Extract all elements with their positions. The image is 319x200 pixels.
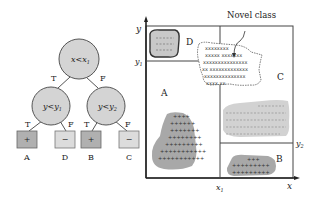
decision-tree-diagram: T F T F T F x<x1 y<y1 y<y2 + A − D + B −…	[0, 0, 319, 200]
y2-tick-label: y2	[295, 139, 304, 149]
svg-text:+++++++++: +++++++++	[232, 169, 270, 175]
svg-text:xxxxxxxxxxxxxxx: xxxxxxxxxxxxxxx	[203, 59, 247, 65]
leaf-B: + B	[81, 131, 101, 162]
left-node: y<y1	[32, 87, 70, 125]
region-label-C: C	[277, 72, 284, 82]
svg-text:A: A	[23, 153, 30, 162]
root-node: x<x1	[59, 39, 99, 79]
svg-text:+++++++++: +++++++++	[232, 162, 270, 168]
svg-text:++++++: ++++++	[170, 120, 195, 126]
right-node: y<y2	[87, 87, 125, 125]
edge-label-left-false: F	[68, 120, 74, 129]
y-axis-label: y	[135, 24, 142, 34]
x-axis-label: x	[287, 181, 292, 191]
leaf-A: + A	[17, 131, 37, 162]
svg-text:−: −	[126, 135, 133, 144]
edge-label-root-false: F	[100, 74, 106, 83]
y1-tick-label: y1	[134, 57, 143, 67]
svg-text:+++++++++++: +++++++++++	[160, 148, 206, 154]
edge-label-right-false: F	[125, 120, 131, 129]
novel-class-label: Novel class	[227, 10, 276, 20]
svg-text:C: C	[126, 153, 132, 162]
x1-tick-label: x1	[216, 183, 224, 193]
svg-text:xxxxxxxx: xxxxxxxx	[205, 45, 229, 51]
svg-text:xxxxxxxxxxxxxx: xxxxxxxxxxxxxx	[204, 73, 245, 79]
svg-text:D: D	[62, 153, 68, 162]
edge-label-left-true: T	[25, 120, 31, 129]
svg-text:++++++++: ++++++++	[168, 134, 202, 140]
x-axis-arrow-icon	[294, 176, 300, 180]
feature-space-plot: xxxxxxxx xxxxx xxxxxxx xxxxxxxxxxxxxxx x…	[134, 10, 304, 193]
region-label-A: A	[160, 88, 168, 98]
svg-text:xxxxx xxxxxxx: xxxxx xxxxxxx	[205, 52, 242, 58]
svg-text:+++++++++: +++++++++	[165, 141, 203, 147]
svg-text:+++++++++++: +++++++++++	[158, 155, 204, 161]
leaf-D: − D	[55, 131, 75, 162]
svg-text:xx xxxxxxxxxxxxx: xx xxxxxxxxxxxxx	[202, 66, 248, 72]
svg-text:+++++++: +++++++	[170, 127, 199, 133]
svg-text:+: +	[88, 135, 95, 144]
region-label-B: B	[276, 154, 283, 164]
svg-text:−: −	[62, 135, 69, 144]
svg-text:++++: ++++	[173, 113, 190, 119]
y-axis-arrow-icon	[144, 16, 148, 22]
edge-label-right-true: T	[84, 120, 90, 129]
svg-text:xxxx xx: xxxx xx	[206, 80, 225, 86]
leaf-C: − C	[119, 131, 139, 162]
region-label-D: D	[186, 37, 193, 47]
edge-label-root-true: T	[51, 74, 57, 83]
svg-text:B: B	[88, 153, 94, 162]
svg-text:+: +	[24, 135, 31, 144]
